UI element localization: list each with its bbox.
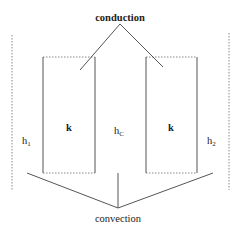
left-convection-coefficient-label: h1: [22, 135, 31, 148]
left-conductivity-label: k: [66, 122, 72, 133]
right-solid-box: [146, 57, 197, 173]
conduction-label: conduction: [95, 12, 145, 23]
conduction-arrows: [80, 24, 163, 70]
left-solid-box: [43, 57, 95, 173]
convection-arrows: [27, 173, 213, 208]
svg-text:h2: h2: [207, 135, 216, 148]
right-convection-coefficient-label: h2: [207, 135, 216, 148]
svg-text:h1: h1: [22, 135, 31, 148]
right-conductivity-label: k: [168, 122, 174, 133]
heat-transfer-diagram: conduction convection k k hC h1 h2: [0, 0, 241, 233]
convection-label: convection: [95, 213, 142, 224]
svg-text:hC: hC: [114, 125, 124, 138]
center-convection-coefficient-label: hC: [114, 125, 124, 138]
